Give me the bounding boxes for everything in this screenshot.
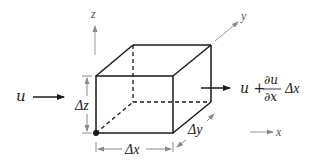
x-axis-label: x: [275, 125, 282, 139]
z-axis: z: [90, 7, 96, 55]
outflow-denominator: ∂x: [264, 90, 277, 104]
cube-front-face: [96, 76, 173, 133]
outflow-suffix: Δx: [284, 81, 300, 96]
dimension-dy-label: Δy: [187, 122, 203, 137]
y-axis-label: y: [240, 9, 247, 23]
outflow-label-prefix: u +: [240, 80, 265, 96]
outflow-numerator: ∂u: [264, 73, 278, 87]
inflow-label: u: [16, 87, 26, 105]
y-axis: y: [215, 9, 247, 41]
inflow: u: [16, 87, 64, 105]
z-axis-label: z: [90, 7, 96, 21]
control-volume-diagram: z y x u u + ∂u ∂x: [0, 0, 314, 167]
outflow: u + ∂u ∂x Δx: [201, 73, 300, 104]
x-axis: x: [250, 125, 282, 139]
cube: [96, 45, 211, 133]
origin-point: [93, 130, 99, 136]
dimension-dx-label: Δx: [124, 142, 140, 157]
dimension-dz-label: Δz: [74, 98, 89, 113]
